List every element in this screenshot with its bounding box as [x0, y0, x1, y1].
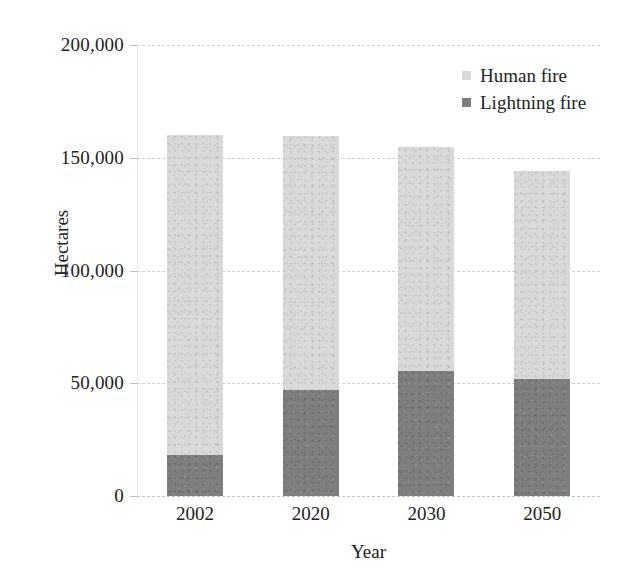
gridline-200000 [137, 45, 600, 46]
bar-segment-lightning-fire-2002[interactable] [167, 455, 223, 496]
x-tick-label-2030: 2030 [371, 503, 481, 525]
x-tick-label-2020: 2020 [256, 503, 366, 525]
y-tick-label-50000: 50,000 [4, 373, 124, 392]
x-axis-title: Year [137, 541, 600, 563]
bar-segment-human-fire-2050[interactable] [514, 171, 570, 378]
y-tick-mark-0 [130, 496, 137, 497]
bar-segment-lightning-fire-2030[interactable] [398, 371, 454, 496]
bar-chart: 200,000 150,000 100,000 50,000 0 Hectare… [0, 0, 634, 581]
y-tick-label-200000: 200,000 [4, 35, 124, 54]
bar-group-2020[interactable] [283, 136, 339, 496]
bar-group-2050[interactable] [514, 171, 570, 496]
y-tick-mark-200000 [130, 45, 137, 46]
y-tick-mark-150000 [130, 158, 137, 159]
legend-item-lightning-fire: Lightning fire [462, 89, 634, 116]
bar-segment-human-fire-2020[interactable] [283, 136, 339, 390]
bar-segment-lightning-fire-2050[interactable] [514, 379, 570, 496]
gridline-0 [137, 496, 600, 497]
legend-swatch-lightning-fire-icon [462, 98, 471, 107]
legend-label-human-fire: Human fire [480, 66, 567, 85]
bar-group-2030[interactable] [398, 146, 454, 496]
chart-legend: Human fire Lightning fire [462, 62, 634, 116]
x-tick-label-2002: 2002 [140, 503, 250, 525]
legend-label-lightning-fire: Lightning fire [480, 93, 586, 112]
bar-segment-human-fire-2030[interactable] [398, 147, 454, 371]
legend-swatch-human-fire-icon [462, 71, 471, 80]
y-tick-label-0: 0 [4, 486, 124, 505]
bar-segment-human-fire-2002[interactable] [167, 135, 223, 455]
x-tick-label-2050: 2050 [487, 503, 597, 525]
y-tick-mark-100000 [130, 271, 137, 272]
bar-segment-lightning-fire-2020[interactable] [283, 390, 339, 496]
y-axis-title: Hectares [51, 163, 73, 323]
bar-group-2002[interactable] [167, 135, 223, 496]
legend-item-human-fire: Human fire [462, 62, 634, 89]
y-tick-mark-50000 [130, 383, 137, 384]
